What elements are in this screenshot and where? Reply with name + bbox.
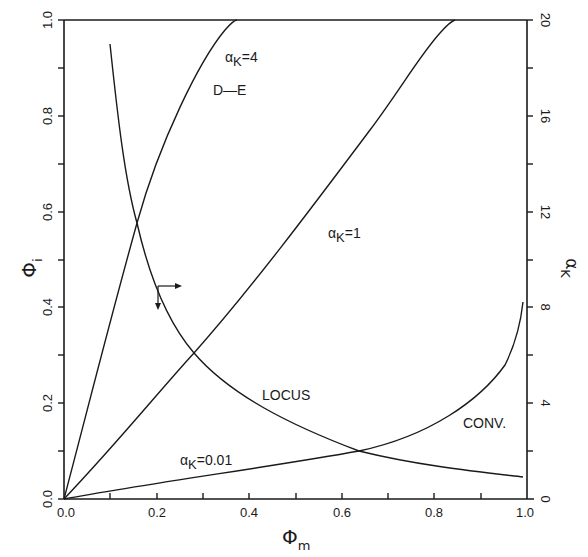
svg-text:0.2: 0.2 <box>148 505 166 520</box>
left-ticks <box>58 20 64 499</box>
curve-ak-1 <box>64 20 455 499</box>
svg-text:0.6: 0.6 <box>333 505 351 520</box>
svg-text:αK: αK <box>558 258 582 278</box>
svg-text:0.4: 0.4 <box>40 298 55 316</box>
curve-locus <box>110 44 523 477</box>
svg-text:0.8: 0.8 <box>40 107 55 125</box>
svg-text:0.0: 0.0 <box>40 490 55 508</box>
y2-axis-title: αK <box>558 258 582 278</box>
right-axis-arrow-icon <box>155 283 182 310</box>
label-de: D—E <box>213 82 246 98</box>
svg-text:0.0: 0.0 <box>57 505 75 520</box>
svg-text:0.4: 0.4 <box>240 505 258 520</box>
label-ak-4: αK=4 <box>225 49 258 69</box>
y-axis-title: Φi <box>17 258 45 277</box>
svg-text:1.0: 1.0 <box>516 505 534 520</box>
right-tick-labels: 0 4 8 12 16 20 <box>538 13 553 503</box>
curve-ak-4 <box>64 20 237 499</box>
svg-text:0.2: 0.2 <box>40 394 55 412</box>
svg-text:16: 16 <box>538 109 553 123</box>
svg-text:0: 0 <box>538 495 553 502</box>
chart-canvas: 0.0 0.2 0.4 0.6 0.8 1.0 0.0 0.2 0.4 0.6 … <box>0 0 588 557</box>
svg-text:Φm: Φm <box>282 525 310 553</box>
svg-text:4: 4 <box>538 399 553 406</box>
svg-text:Φi: Φi <box>17 258 45 277</box>
svg-text:8: 8 <box>538 303 553 310</box>
svg-text:12: 12 <box>538 205 553 219</box>
label-ak-1: αK=1 <box>328 225 361 245</box>
svg-text:0.6: 0.6 <box>40 203 55 221</box>
svg-text:1.0: 1.0 <box>40 11 55 29</box>
x-axis-title: Φm <box>282 525 310 553</box>
bottom-tick-labels: 0.0 0.2 0.4 0.6 0.8 1.0 <box>57 505 534 520</box>
right-ticks <box>527 20 533 451</box>
svg-text:20: 20 <box>538 13 553 27</box>
label-locus: LOCUS <box>262 387 310 403</box>
label-conv: CONV. <box>463 415 506 431</box>
label-ak-001: αK=0.01 <box>180 452 232 472</box>
bottom-ticks <box>110 493 481 499</box>
svg-text:0.8: 0.8 <box>425 505 443 520</box>
